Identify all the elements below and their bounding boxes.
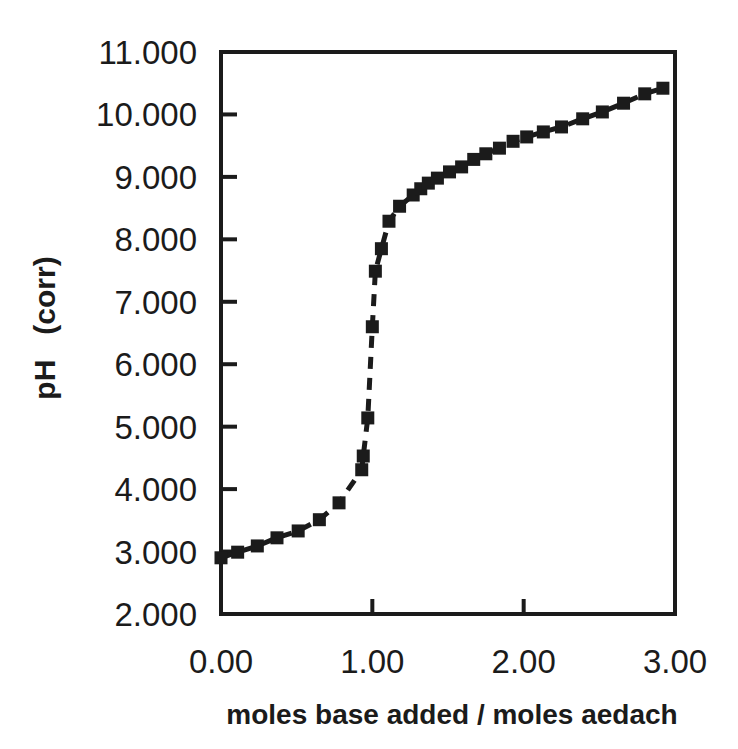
y-tick-label: 4.000 [114,471,197,508]
data-series-layer [215,82,670,565]
titration-figure: 2.0003.0004.0005.0006.0007.0008.0009.000… [0,0,738,749]
data-point-marker [292,524,305,537]
data-point-marker [333,496,346,509]
data-point-marker [382,215,395,228]
x-tick-label: 1.00 [340,643,404,680]
data-point-marker [313,513,326,526]
data-point-marker [537,125,550,138]
data-point-marker [357,450,370,463]
y-tick-label: 5.000 [114,409,197,446]
data-point-marker [443,165,456,178]
data-point-marker [215,551,228,564]
y-tick-label: 7.000 [114,284,197,321]
chart-canvas: 2.0003.0004.0005.0006.0007.0008.0009.000… [0,0,738,749]
data-point-marker [467,153,480,166]
data-point-marker [576,112,589,125]
data-point-marker [270,531,283,544]
y-tick-label: 3.000 [114,534,197,571]
y-tick-label: 2.000 [114,596,197,633]
data-point-marker [361,411,374,424]
data-point-marker [555,120,568,133]
y-tick-label: 9.000 [114,159,197,196]
plot-frame [221,52,675,614]
data-point-marker [656,82,669,95]
y-axis-title: pH (corr) [28,256,61,399]
x-tick-label: 2.00 [492,643,556,680]
x-axis-title: moles base added / moles aedach [226,699,677,730]
data-point-marker [638,87,651,100]
y-tick-label: 8.000 [114,221,197,258]
data-point-marker [431,172,444,185]
data-point-marker [393,200,406,213]
data-point-marker [375,242,388,255]
data-point-marker [231,546,244,559]
data-point-marker [455,160,468,173]
data-point-marker [507,135,520,148]
data-point-marker [479,147,492,160]
data-point-marker [596,105,609,118]
data-point-marker [520,130,533,143]
data-point-marker [251,539,264,552]
data-point-marker [617,97,630,110]
x-tick-label: 0.00 [189,643,253,680]
axis-layer: 2.0003.0004.0005.0006.0007.0008.0009.000… [96,34,707,680]
y-tick-label: 11.000 [99,34,197,71]
data-point-marker [369,265,382,278]
data-point-marker [355,463,368,476]
data-point-marker [366,320,379,333]
y-tick-label: 10.000 [96,96,197,133]
y-tick-label: 6.000 [114,346,197,383]
titration-curve-line [221,88,663,558]
data-point-marker [493,142,506,155]
x-tick-label: 3.00 [643,643,707,680]
